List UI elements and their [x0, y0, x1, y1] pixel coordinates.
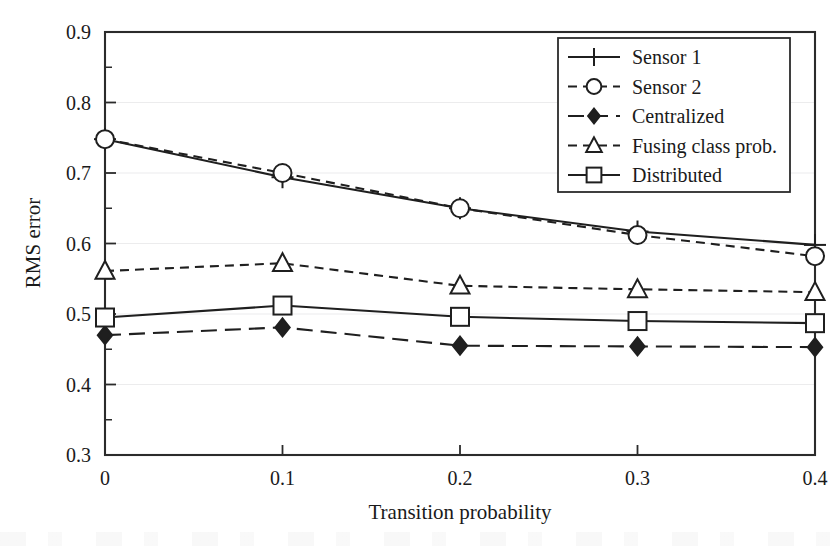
marker-circle — [96, 130, 114, 148]
marker-circle — [587, 79, 602, 94]
marker-circle — [806, 247, 824, 265]
x-tick-label: 0.2 — [448, 467, 473, 489]
rms-error-line-chart: 0.30.40.50.60.70.80.9 00.10.20.30.4 RMS … — [0, 0, 840, 546]
legend-label: Sensor 2 — [632, 76, 701, 98]
marker-square — [587, 168, 602, 183]
y-tick-label: 0.7 — [66, 162, 91, 184]
marker-square — [274, 297, 292, 315]
marker-square — [629, 312, 647, 330]
legend-label: Fusing class prob. — [632, 135, 777, 158]
marker-circle — [629, 226, 647, 244]
legend-label: Distributed — [632, 164, 722, 186]
chart-legend: Sensor 1Sensor 2CentralizedFusing class … — [558, 38, 790, 192]
y-tick-label: 0.4 — [66, 374, 91, 396]
marker-circle — [274, 164, 292, 182]
x-tick-label: 0.3 — [625, 467, 650, 489]
x-tick-label: 0.4 — [803, 467, 828, 489]
marker-square — [451, 308, 469, 326]
legend-label: Sensor 1 — [632, 46, 701, 68]
marker-square — [806, 314, 824, 332]
marker-circle — [451, 199, 469, 217]
x-axis-title: Transition probability — [369, 500, 552, 524]
y-tick-label: 0.3 — [66, 444, 91, 466]
y-axis-title: RMS error — [21, 198, 45, 288]
legend-label: Centralized — [632, 105, 724, 127]
y-tick-label: 0.8 — [66, 92, 91, 114]
legend-item-distributed[interactable]: Distributed — [568, 164, 722, 186]
y-tick-label: 0.9 — [66, 21, 91, 43]
x-tick-label: 0.1 — [270, 467, 295, 489]
marker-square — [96, 309, 114, 327]
y-tick-label: 0.5 — [66, 303, 91, 325]
y-tick-label: 0.6 — [66, 233, 91, 255]
figure-container: 0.30.40.50.60.70.80.9 00.10.20.30.4 RMS … — [0, 0, 840, 546]
x-tick-label: 0 — [100, 467, 110, 489]
